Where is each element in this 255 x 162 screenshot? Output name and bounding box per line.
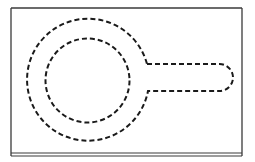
outer-ring-with-handle-outline bbox=[27, 19, 233, 141]
line-drawing bbox=[0, 0, 255, 162]
figure-canvas bbox=[0, 0, 255, 162]
inner-circle-outline bbox=[46, 39, 130, 123]
